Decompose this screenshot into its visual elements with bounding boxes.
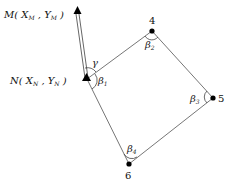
point-n-label: N( XN , YN ) — [9, 75, 67, 87]
point-4-label: 4 — [149, 15, 155, 26]
angle-arcs — [85, 36, 207, 159]
beta3-arc — [204, 91, 207, 103]
beta1-label: β1 — [97, 75, 108, 87]
line-6-n — [87, 79, 129, 164]
line-5-6 — [129, 98, 213, 164]
traverse-diagram: M( XM , YM ) N( XN , YN ) 4 5 6 γ β1 β2 … — [0, 0, 232, 188]
point-4-dot — [149, 28, 154, 33]
beta3-label: β3 — [189, 93, 200, 105]
point-5-dot — [210, 95, 215, 100]
gamma-label: γ — [92, 57, 98, 68]
beta4-label: β4 — [126, 143, 137, 155]
line-n-4 — [87, 31, 152, 79]
beta1-arc — [92, 74, 97, 89]
point-6-label: 6 — [125, 170, 131, 181]
point-m-label: M( XM , YM ) — [3, 9, 64, 21]
line-4-5 — [152, 31, 213, 98]
point-6-dot — [126, 161, 131, 166]
point-m-triangle-icon — [74, 6, 82, 14]
known-direction-line — [76, 14, 88, 78]
beta2-label: β2 — [144, 39, 155, 51]
point-5-label: 5 — [218, 93, 224, 104]
